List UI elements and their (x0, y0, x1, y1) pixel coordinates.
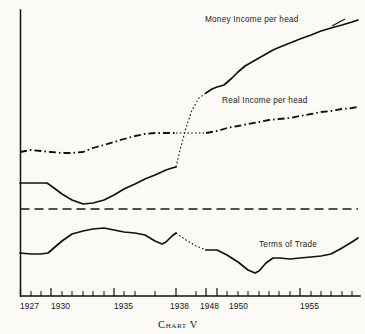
series-label-money-income: Money Income per head (205, 15, 299, 24)
x-tick-label-1955: 1955 (300, 301, 319, 311)
real-income-line-postwar (206, 107, 358, 133)
money-income-line-gap (176, 93, 206, 167)
terms-of-trade-line-prewar (20, 228, 176, 254)
series-label-terms-of-trade: Terms of Trade (259, 240, 317, 249)
x-tick-label-1938: 1938 (170, 301, 189, 311)
series-label-real-income: Real Income per head (222, 96, 308, 105)
x-tick-label-1935: 1935 (114, 301, 133, 311)
x-tick-label-1927: 1927 (20, 301, 39, 311)
terms-of-trade-line-gap (176, 233, 206, 250)
money-income-line-postwar (206, 20, 358, 93)
chart-caption: Chart V (158, 319, 198, 330)
real-income-line-prewar (20, 133, 176, 153)
x-tick-label-1950: 1950 (229, 301, 248, 311)
chart-canvas: Money Income per head Real Income per he… (0, 0, 365, 334)
chart-figure: Money Income per head Real Income per he… (0, 0, 365, 334)
x-tick-label-1930: 1930 (51, 301, 70, 311)
x-tick-label-1948: 1948 (200, 301, 219, 311)
money-income-line-prewar (20, 167, 176, 204)
